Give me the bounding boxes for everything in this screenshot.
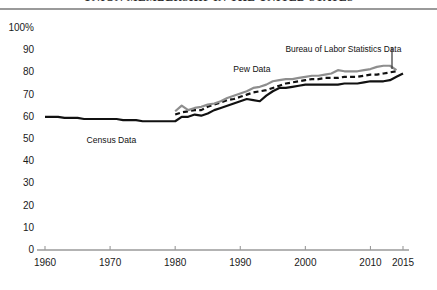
y-axis-tick-label: 100% <box>0 23 34 33</box>
chart-root: UNION MEMBERSHIP IN THE UNITED STATES 10… <box>0 0 437 290</box>
y-axis-tick-label: 40 <box>4 156 34 166</box>
annotation-census-data: Census Data <box>87 135 137 145</box>
annotation-bureau-of-labor-statistics-data: Bureau of Labor Statistics Data <box>285 44 401 54</box>
y-axis-tick-label: 10 <box>4 223 34 233</box>
y-axis-tick-label: 90 <box>4 45 34 55</box>
x-axis-tick-label: 1960 <box>25 258 65 268</box>
annotation-pew-data: Pew Data <box>233 64 270 74</box>
y-axis-tick-label: 50 <box>4 134 34 144</box>
y-axis-tick-label: 60 <box>4 112 34 122</box>
y-axis-tick-label: 20 <box>4 201 34 211</box>
y-axis-tick-label: 0 <box>4 245 34 255</box>
series-line-census-data <box>45 74 403 122</box>
x-axis-tick-label: 1970 <box>90 258 130 268</box>
series-line-bureau-of-labor-statistics-data <box>175 71 396 114</box>
y-axis-tick-label: 80 <box>4 67 34 77</box>
x-axis-tick-label: 2015 <box>383 258 423 268</box>
y-axis-tick-label: 70 <box>4 90 34 100</box>
y-axis-tick-label: 30 <box>4 178 34 188</box>
x-axis-tick-label: 1980 <box>155 258 195 268</box>
x-axis-tick-label: 1990 <box>220 258 260 268</box>
x-axis-tick-label: 2000 <box>285 258 325 268</box>
